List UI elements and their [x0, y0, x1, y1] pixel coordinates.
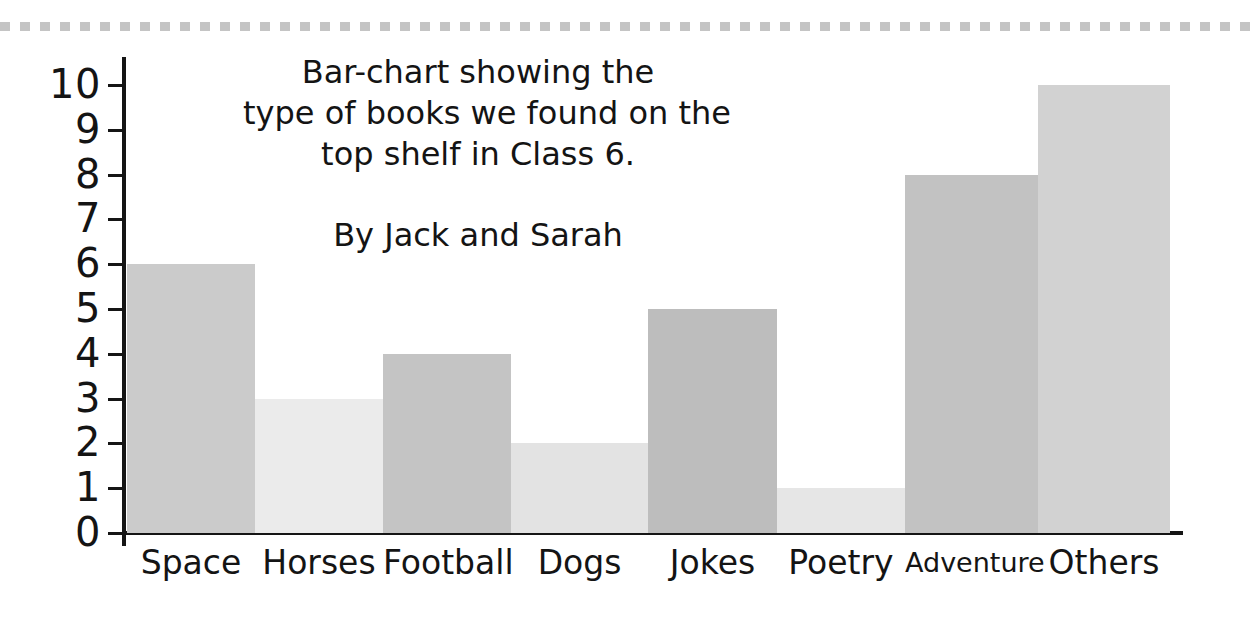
bar	[648, 309, 777, 533]
bar	[905, 175, 1038, 533]
x-axis-category-label: Dogs	[511, 537, 648, 589]
x-axis-category-label: Jokes	[648, 537, 777, 589]
bar	[255, 399, 383, 533]
x-axis-category-label: Adventure	[905, 537, 1038, 589]
x-axis-category-label: Poetry	[777, 537, 905, 589]
x-axis-category-labels: SpaceHorsesFootballDogsJokesPoetryAdvent…	[0, 537, 1260, 597]
bar-chart: 109876543210 SpaceHorsesFootballDogsJoke…	[0, 0, 1260, 620]
chart-byline: By Jack and Sarah	[243, 215, 713, 256]
chart-title-line: type of books we found on the	[243, 93, 713, 134]
x-axis-category-label: Space	[127, 537, 255, 589]
x-axis-category-label: Football	[383, 537, 511, 589]
x-axis-category-label: Horses	[255, 537, 383, 589]
bar	[777, 488, 905, 533]
bar	[383, 354, 511, 533]
chart-title-line: Bar-chart showing the	[243, 52, 713, 93]
chart-title: Bar-chart showing thetype of books we fo…	[243, 52, 713, 175]
x-axis-category-label: Others	[1038, 537, 1170, 589]
chart-title-line: top shelf in Class 6.	[243, 134, 713, 175]
bar	[511, 443, 648, 533]
bar	[127, 264, 255, 533]
bar	[1038, 85, 1170, 533]
